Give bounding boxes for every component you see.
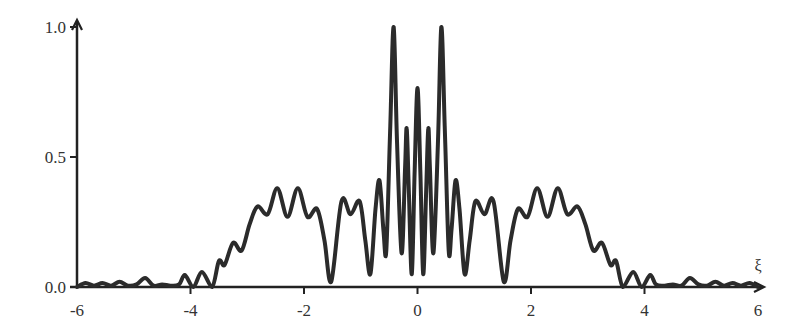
line-chart: -6-4-20246 0.00.51.0 ξ (0, 0, 802, 332)
y-ticks: 0.00.51.0 (45, 18, 77, 297)
x-tick-label: 2 (527, 301, 536, 320)
y-tick-label: 0.5 (45, 148, 66, 167)
y-tick-label: 1.0 (45, 18, 66, 37)
x-axis-label: ξ (754, 257, 761, 274)
x-tick-label: -4 (183, 301, 198, 320)
y-tick-label: 0.0 (45, 278, 66, 297)
data-line (77, 27, 758, 287)
x-tick-label: 4 (640, 301, 649, 320)
x-tick-label: -2 (297, 301, 311, 320)
x-tick-label: 6 (754, 301, 763, 320)
x-tick-label: 0 (413, 301, 422, 320)
x-ticks: -6-4-20246 (70, 287, 762, 320)
x-tick-label: -6 (70, 301, 84, 320)
